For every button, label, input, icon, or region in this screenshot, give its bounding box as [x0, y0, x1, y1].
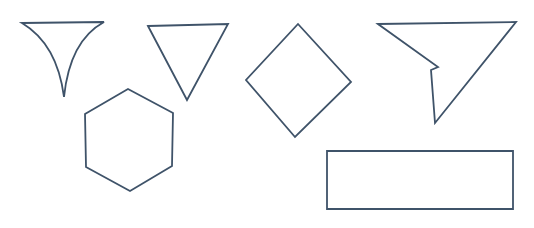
shapes-svg	[0, 0, 534, 228]
shape-drawing-canvas	[0, 0, 534, 228]
canvas-background	[0, 0, 534, 228]
